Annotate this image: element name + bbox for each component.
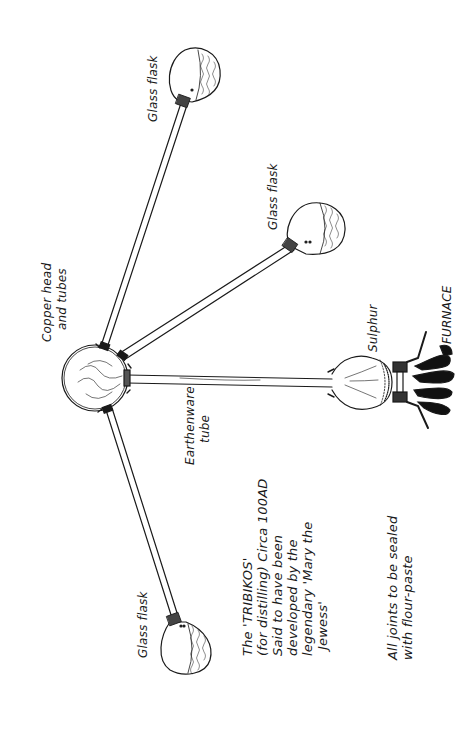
copper-tube-bottom [106,408,178,618]
glass-flask-bottom [161,612,211,674]
glass-flask-right [282,203,345,255]
description-line: (for distilling) Circa 100AD [255,478,270,656]
description-block: The 'TRIBIKOS' (for distilling) Circa 10… [240,478,330,656]
label-glass-flask-bottom: Glass flask [136,591,151,658]
copper-tube-right [120,244,294,360]
label-sulphur: Sulphur [366,304,381,352]
description-line: Said to have been [270,478,285,656]
label-earthenware-tube: Earthenware tube [183,386,213,465]
sulphur-flask [328,356,392,409]
note-line: All joints to be sealed [385,516,400,660]
description-line: legendary 'Mary the [300,478,315,656]
description-line: The 'TRIBIKOS' [240,478,255,656]
earthenware-tube [127,375,332,387]
glass-flask-top [169,48,220,108]
description-line: Jewess' [315,478,330,656]
note-line: with flour-paste [400,516,415,660]
label-glass-flask-right: Glass flask [266,163,281,230]
description-line: developed by the [285,478,300,656]
label-glass-flask-top: Glass flask [146,55,161,122]
note-block: All joints to be sealed with flour-paste [385,516,415,660]
label-copper-head: Copper head and tubes [40,263,70,342]
label-furnace: FURNACE [440,285,455,344]
copper-head [62,342,131,413]
furnace [393,332,454,428]
copper-tube-top [101,103,187,348]
